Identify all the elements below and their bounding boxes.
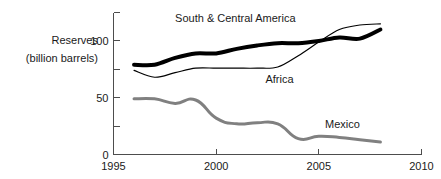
- x-tick-label-1995: 1995: [101, 160, 125, 172]
- x-tick-label-2005: 2005: [307, 160, 331, 172]
- reserves-line-chart: 050100 1995200020052010 Reserves (billio…: [0, 0, 441, 179]
- series-label-south-central-america: South & Central America: [175, 12, 296, 24]
- y-axis-ticks: [114, 13, 120, 155]
- chart-canvas: 050100 1995200020052010 Reserves (billio…: [0, 0, 441, 179]
- x-axis-ticks: [216, 149, 421, 155]
- y-tick-label-50: 50: [96, 92, 108, 104]
- x-tick-label-2000: 2000: [204, 160, 228, 172]
- series-label-africa: Africa: [265, 73, 294, 85]
- series-labels: South & Central AmericaAfricaMexico: [175, 12, 360, 131]
- y-axis-title-line1: Reserves: [52, 34, 99, 46]
- y-axis-title-line2: (billion barrels): [26, 52, 98, 64]
- series-label-mexico: Mexico: [325, 118, 360, 130]
- x-axis-tick-labels: 1995200020052010: [101, 160, 433, 172]
- x-tick-label-2010: 2010: [409, 160, 433, 172]
- series-line-south-central-america: [134, 30, 380, 66]
- series-line-africa: [134, 24, 380, 77]
